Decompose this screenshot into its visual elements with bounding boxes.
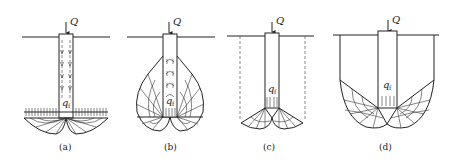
panel-label: (d) [379,142,392,152]
load-symbol: Q [173,16,181,27]
panel-label: (c) [263,142,275,152]
load-symbol: Q [70,16,78,27]
panel-a: Q q f [22,16,110,152]
panel-label: (a) [59,142,71,152]
panel-label: (b) [164,142,177,152]
failure-zone [24,118,108,134]
load-symbol: Q [276,15,284,26]
panel-d: Q q f (d) [333,14,439,152]
pile-failure-modes-figure: Q q f [0,0,457,162]
failure-zone [241,108,303,129]
panel-c: Q q f (c) [227,15,314,152]
panel-b: Q q f (b) [127,16,215,152]
pile [265,33,279,108]
load-symbol: Q [392,14,400,25]
